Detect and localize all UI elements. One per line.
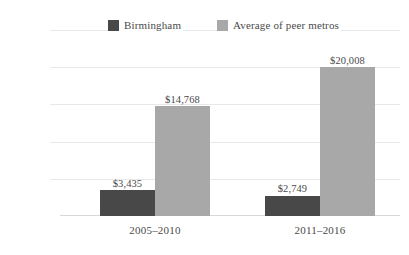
gridline-stub <box>50 104 60 105</box>
legend-swatch-birmingham-icon <box>108 20 119 31</box>
bar-chart: $25,000 $20,000 $15,000 $10,000 $5,000 $… <box>0 0 409 255</box>
bar-value-label-birmingham-2005-2010: $3,435 <box>94 178 161 189</box>
gridline-stub <box>50 142 60 143</box>
gridline-stub <box>50 179 60 180</box>
plot-area: $3,435 $14,768 $2,749 $20,008 <box>60 30 400 216</box>
gridline-stub <box>50 67 60 68</box>
legend-label-peer-metros: Average of peer metros <box>233 19 339 31</box>
legend-label-birmingham: Birmingham <box>124 19 181 31</box>
legend-item-birmingham[interactable]: Birmingham <box>108 17 183 33</box>
x-axis-tick-label-2005-2010: 2005–2010 <box>100 224 210 236</box>
bar-value-label-peer-metros-2005-2010: $14,768 <box>145 94 220 105</box>
bar-peer-metros-2005-2010 <box>155 106 210 216</box>
x-axis: 2005–2010 2011–2016 <box>60 220 400 246</box>
bar-value-label-peer-metros-2011-2016: $20,008 <box>310 55 385 66</box>
bar-birmingham-2011-2016 <box>265 196 320 217</box>
x-axis-tick-label-2011-2016: 2011–2016 <box>265 224 375 236</box>
bar-birmingham-2005-2010 <box>100 190 155 216</box>
legend-item-peer-metros[interactable]: Average of peer metros <box>217 17 341 33</box>
bar-peer-metros-2011-2016 <box>320 67 375 216</box>
chart-legend: Birmingham Average of peer metros <box>60 17 400 33</box>
gridline-stub <box>50 30 60 31</box>
legend-swatch-peer-metros-icon <box>217 20 228 31</box>
bar-value-label-birmingham-2011-2016: $2,749 <box>259 183 326 194</box>
